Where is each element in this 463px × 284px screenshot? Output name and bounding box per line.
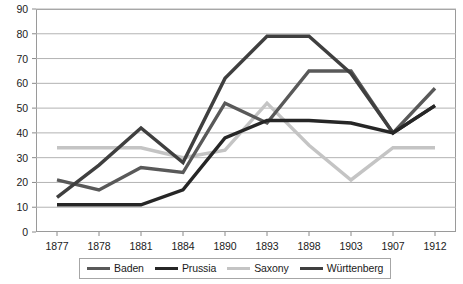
y-tick-label: 30 <box>0 153 28 164</box>
legend-item[interactable]: Württenberg <box>300 263 384 274</box>
y-axis-ticks <box>32 9 36 232</box>
x-axis-ticks <box>57 232 435 236</box>
legend-item[interactable]: Baden <box>87 263 144 274</box>
legend-swatch-icon <box>87 267 110 270</box>
y-tick-label: 60 <box>0 78 28 89</box>
legend-item-label: Saxony <box>254 263 288 274</box>
chart-legend: BadenPrussiaSaxonyWürttenberg <box>79 258 391 279</box>
x-tick-label: 1907 <box>371 241 415 252</box>
gridlines <box>36 9 456 207</box>
legend-item-label: Württenberg <box>327 263 384 274</box>
x-tick-label: 1878 <box>77 241 121 252</box>
legend-item[interactable]: Saxony <box>227 263 288 274</box>
y-tick-label: 0 <box>0 227 28 238</box>
y-tick-label: 90 <box>0 4 28 15</box>
y-tick-label: 50 <box>0 103 28 114</box>
legend-item-label: Prussia <box>182 263 216 274</box>
legend-swatch-icon <box>155 267 178 270</box>
y-tick-label: 10 <box>0 202 28 213</box>
series-lines <box>57 36 435 204</box>
legend-swatch-icon <box>300 267 323 270</box>
x-tick-label: 1903 <box>329 241 373 252</box>
y-tick-label: 70 <box>0 54 28 65</box>
x-tick-label: 1877 <box>35 241 79 252</box>
x-tick-label: 1893 <box>245 241 289 252</box>
line-chart: 0102030405060708090 18771878188118841890… <box>0 0 463 284</box>
legend-item-label: Baden <box>114 263 144 274</box>
y-tick-label: 80 <box>0 29 28 40</box>
x-tick-label: 1884 <box>161 241 205 252</box>
legend-item[interactable]: Prussia <box>155 263 216 274</box>
y-tick-label: 40 <box>0 128 28 139</box>
x-tick-label: 1890 <box>203 241 247 252</box>
x-tick-label: 1898 <box>287 241 331 252</box>
legend-swatch-icon <box>227 267 250 270</box>
series-line-prussia <box>57 106 435 205</box>
y-tick-label: 20 <box>0 177 28 188</box>
series-line-württenberg <box>57 36 435 197</box>
x-tick-label: 1881 <box>119 241 163 252</box>
x-tick-label: 1912 <box>413 241 457 252</box>
